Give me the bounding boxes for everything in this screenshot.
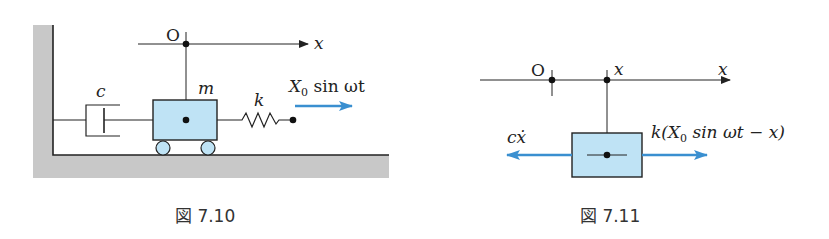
position-label: x bbox=[614, 59, 624, 79]
caption-fig-7-11: 図 7.11 bbox=[580, 206, 640, 226]
mass-center-point bbox=[183, 117, 190, 124]
forcing-label: X0 sin ωt bbox=[287, 76, 365, 99]
damper-label: c bbox=[96, 81, 106, 101]
mass-cart: m bbox=[153, 78, 217, 155]
spring-force: k(X0 sin ωt − x) bbox=[642, 122, 785, 155]
spring-end-point bbox=[290, 117, 297, 124]
spring-label: k bbox=[254, 90, 264, 110]
axis-label: x bbox=[314, 33, 324, 53]
forcing-displacement: X0 sin ωt bbox=[287, 76, 365, 106]
origin-point bbox=[549, 77, 556, 84]
axis-label: x bbox=[718, 59, 728, 79]
spring: k bbox=[217, 90, 296, 127]
diagram-canvas: O x c m k X0 sin ωt bbox=[0, 0, 829, 239]
figure-7-10: O x c m k X0 sin ωt bbox=[33, 25, 389, 226]
wheel bbox=[201, 141, 215, 155]
origin-label: O bbox=[531, 60, 545, 80]
origin-point bbox=[183, 41, 190, 48]
spring-force-label: k(X0 sin ωt − x) bbox=[651, 122, 785, 145]
free-body-mass bbox=[572, 133, 642, 177]
mass-label: m bbox=[198, 78, 214, 98]
figure-7-11: O x x cẋ k(X0 sin ωt − x) 図 7.11 bbox=[480, 59, 785, 226]
caption-fig-7-10: 図 7.10 bbox=[175, 206, 235, 226]
origin-label: O bbox=[166, 25, 180, 45]
damper: c bbox=[53, 81, 153, 136]
damping-force: cẋ bbox=[507, 127, 572, 155]
position-point bbox=[604, 77, 611, 84]
wheel bbox=[156, 141, 170, 155]
mass-center-point bbox=[604, 152, 611, 159]
damping-force-label: cẋ bbox=[507, 127, 527, 147]
